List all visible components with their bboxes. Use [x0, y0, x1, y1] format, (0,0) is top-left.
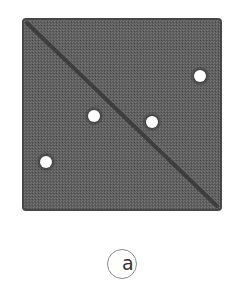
point-p4: [40, 156, 52, 168]
point-p1: [194, 70, 206, 82]
diagram-figure: a: [0, 0, 242, 292]
point-p2: [88, 110, 100, 122]
point-p3: [146, 116, 158, 128]
panel-label: a: [122, 251, 134, 275]
